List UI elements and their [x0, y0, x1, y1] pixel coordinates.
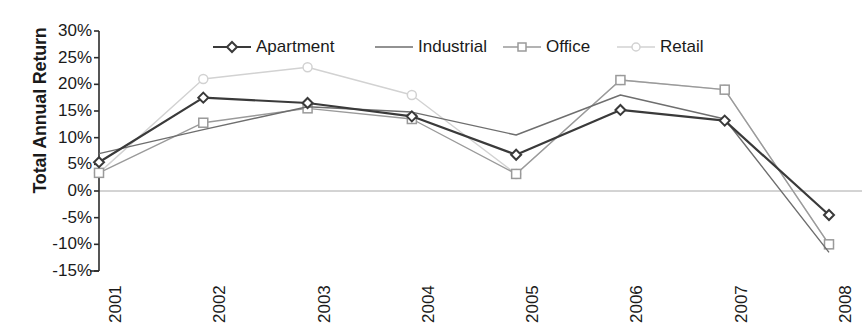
series-line: [99, 80, 829, 244]
y-axis-tick-label: 25%: [28, 49, 92, 66]
legend-swatch: [213, 40, 251, 54]
y-axis-tick-label: -10%: [28, 235, 92, 252]
x-axis-tick-label: 2007: [733, 285, 750, 323]
legend-swatch: [503, 40, 541, 54]
y-axis-tick-label: 0%: [28, 182, 92, 199]
data-point-marker: [95, 168, 104, 177]
x-axis-tick-label: 2004: [420, 285, 437, 323]
x-axis-tick-label: 2002: [211, 285, 228, 323]
legend-item-office: Office: [503, 38, 590, 55]
chart-container: Total Annual Return 30%25%20%15%10%5%0%-…: [0, 0, 864, 329]
x-axis-tick-label: 2005: [524, 285, 541, 323]
legend-item-retail: Retail: [617, 38, 703, 55]
data-point-marker: [616, 76, 625, 85]
data-point-marker: [615, 105, 625, 115]
data-point-marker: [199, 75, 208, 84]
legend-label: Apartment: [256, 38, 334, 55]
y-axis-tick-label: 10%: [28, 129, 92, 146]
x-axis-tick-label: 2008: [837, 285, 854, 323]
legend-item-apartment: Apartment: [213, 38, 334, 55]
y-axis-tick-label: 30%: [28, 22, 92, 39]
legend-label: Retail: [660, 38, 703, 55]
x-axis-tick-label: 2001: [107, 285, 124, 323]
y-axis-tick-label: -5%: [28, 209, 92, 226]
legend-label: Office: [546, 38, 590, 55]
legend-label: Industrial: [418, 38, 487, 55]
y-axis-tick-label: -15%: [28, 262, 92, 279]
series-line: [99, 98, 829, 215]
legend-item-industrial: Industrial: [375, 38, 487, 55]
legend-swatch: [617, 40, 655, 54]
data-point-marker: [303, 63, 312, 72]
legend-swatch: [375, 40, 413, 54]
y-axis-tick-label: 20%: [28, 75, 92, 92]
data-point-marker: [199, 118, 208, 127]
y-axis-tick-label: 15%: [28, 102, 92, 119]
data-point-marker: [198, 93, 208, 103]
y-axis-tick-label: 5%: [28, 155, 92, 172]
data-point-marker: [512, 169, 521, 178]
data-point-marker: [94, 157, 104, 167]
x-axis-tick-label: 2003: [316, 285, 333, 323]
data-point-marker: [407, 91, 416, 100]
x-axis-tick-label: 2006: [628, 285, 645, 323]
data-point-marker: [720, 85, 729, 94]
series-apartment: [94, 93, 834, 220]
y-axis-tick-labels: 30%25%20%15%10%5%0%-5%-10%-15%: [20, 0, 92, 329]
data-point-marker: [511, 150, 521, 160]
